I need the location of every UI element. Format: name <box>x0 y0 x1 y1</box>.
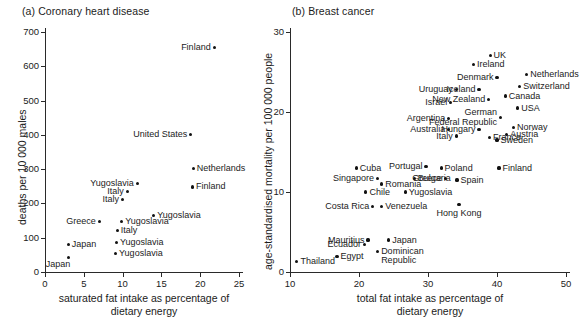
panel-breast-cancer: (b) Breast cancer 01020301020304050total… <box>248 0 587 320</box>
data-point-label: Japan <box>0 260 70 270</box>
data-point <box>126 190 129 193</box>
data-point-label: Portugal <box>248 162 422 172</box>
data-point <box>495 138 498 141</box>
data-point-label: Yugoslavia <box>409 188 453 198</box>
y-tick-label: 30 <box>254 26 284 37</box>
data-point <box>371 205 374 208</box>
data-point-label: Finland <box>196 182 226 192</box>
data-point-label: Dominican Republic <box>381 247 424 266</box>
x-tick <box>497 273 498 277</box>
data-point <box>120 220 123 223</box>
data-point <box>136 182 139 185</box>
data-point-label: Finland <box>0 43 211 53</box>
x-tick-label: 20 <box>180 278 220 289</box>
data-point-label: Italy <box>121 226 138 236</box>
data-point <box>525 73 528 76</box>
x-tick <box>239 273 240 277</box>
data-point-label: Japan <box>392 236 417 246</box>
x-axis-title: total fat intake as percentage of dietar… <box>280 292 580 318</box>
data-point <box>440 166 443 169</box>
panel-b-title: (b) Breast cancer <box>292 5 374 17</box>
data-point-label: Japan <box>72 240 97 250</box>
data-point <box>495 76 498 79</box>
data-point <box>504 94 507 97</box>
y-tick <box>41 32 45 33</box>
data-point <box>472 63 475 66</box>
data-point <box>115 241 118 244</box>
data-point-label: Sweden <box>501 136 534 146</box>
data-point <box>364 190 367 193</box>
data-point-label: Yugoslavia <box>119 249 163 259</box>
data-point <box>376 250 379 253</box>
x-tick-label: 40 <box>477 278 517 289</box>
y-tick <box>286 192 290 193</box>
data-point <box>499 116 502 119</box>
data-point <box>335 255 338 258</box>
data-point-label: Denmark <box>248 73 494 83</box>
x-tick <box>84 273 85 277</box>
data-point-label: Spain <box>460 176 483 186</box>
x-tick <box>428 273 429 277</box>
data-point <box>213 46 216 49</box>
x-tick <box>200 273 201 277</box>
data-point-label: USA <box>521 104 540 114</box>
data-point <box>114 252 117 255</box>
data-point-label: Costa Rica <box>248 202 369 212</box>
data-point <box>487 98 490 101</box>
panel-a-title: (a) Coronary heart disease <box>22 5 150 17</box>
data-point <box>191 185 194 188</box>
data-point-label: Yugoslavia <box>120 238 164 248</box>
y-tick-label: 100 <box>9 232 39 243</box>
data-point-label: Italy <box>248 132 453 142</box>
x-tick <box>161 273 162 277</box>
y-axis-line <box>45 28 46 272</box>
data-point-label: Netherlands <box>197 164 246 174</box>
data-point-label: Hong Kong <box>414 209 504 219</box>
data-point-label: Egypt <box>340 252 363 262</box>
data-point-label: Finland <box>503 164 533 174</box>
x-tick-label: 30 <box>408 278 448 289</box>
data-point-label: Ireland <box>477 60 505 70</box>
data-point <box>488 136 491 139</box>
data-point <box>444 177 447 180</box>
y-tick <box>41 66 45 67</box>
x-tick-label: 10 <box>103 278 143 289</box>
y-tick <box>286 32 290 33</box>
data-point-label: United States <box>0 130 187 140</box>
data-point-label: Israel <box>248 98 447 108</box>
data-point <box>518 85 521 88</box>
data-point <box>67 243 70 246</box>
x-tick-label: 10 <box>270 278 310 289</box>
data-point <box>366 238 369 241</box>
data-point <box>380 182 383 185</box>
data-point-label: Argentina <box>248 114 445 124</box>
data-point <box>457 203 460 206</box>
data-point <box>455 178 458 181</box>
data-point <box>424 165 427 168</box>
data-point-label: Netherlands <box>530 70 579 80</box>
x-tick <box>566 273 567 277</box>
data-point-label: Switzerland <box>523 82 570 92</box>
data-point <box>98 220 101 223</box>
data-point <box>387 238 390 241</box>
data-point-label: Chile <box>369 188 390 198</box>
data-point <box>477 88 480 91</box>
y-tick-label: 500 <box>9 95 39 106</box>
data-point <box>380 205 383 208</box>
y-axis-title: deaths per 10 000 males <box>16 109 28 225</box>
y-tick <box>41 101 45 102</box>
x-tick-label: 0 <box>25 278 65 289</box>
x-tick-label: 50 <box>546 278 586 289</box>
y-tick <box>41 169 45 170</box>
x-axis-line <box>290 272 570 273</box>
x-tick <box>290 273 291 277</box>
data-point-label: Poland <box>445 164 473 174</box>
data-point-label: Thailand <box>300 257 335 267</box>
x-tick-label: 15 <box>141 278 181 289</box>
y-tick <box>41 238 45 239</box>
data-point <box>295 260 298 263</box>
data-point-label: Greece <box>0 217 96 227</box>
figure-two-scatter-panels: (a) Coronary heart disease 0100200300400… <box>0 0 587 320</box>
data-point <box>404 190 407 193</box>
data-point <box>363 243 366 246</box>
